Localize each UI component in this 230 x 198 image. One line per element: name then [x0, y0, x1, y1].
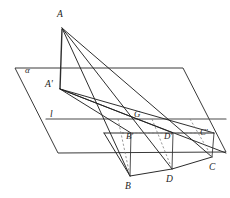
label-D-prime: D' — [164, 132, 172, 141]
label-A-prime: A' — [45, 80, 53, 90]
geometry-figure: A A' α l G B' D' C' B D C — [0, 0, 230, 198]
geometry-canvas — [0, 0, 230, 198]
segment-D-C — [172, 157, 212, 169]
label-G: G — [134, 110, 140, 119]
label-C: C — [209, 163, 215, 173]
segment-Aprime-G — [60, 89, 140, 120]
label-B-prime: B' — [126, 132, 133, 141]
label-A: A — [57, 10, 63, 20]
dashed-guide-B — [118, 119, 130, 176]
label-D: D — [166, 175, 173, 185]
label-B: B — [125, 182, 131, 192]
label-line-l: l — [50, 110, 53, 120]
segment-A-Aprime — [60, 29, 62, 89]
segment-Aprime-Bprime — [60, 89, 131, 133]
segment-Cprime-C — [212, 133, 214, 157]
dashed-guide-C — [190, 119, 212, 157]
segment-A-C — [62, 28, 212, 157]
label-C-prime: C' — [200, 128, 208, 137]
label-plane-alpha: α — [25, 66, 30, 75]
